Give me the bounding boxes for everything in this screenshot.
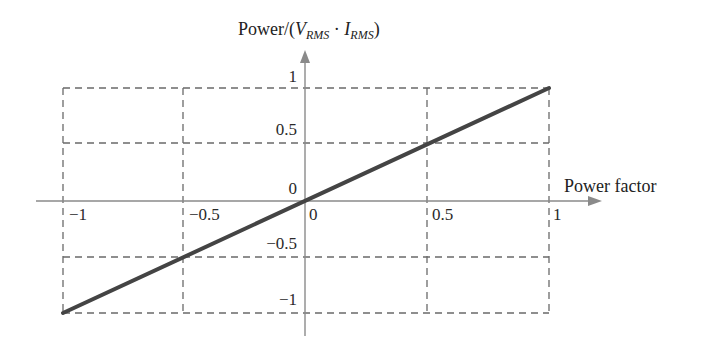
x-tick-label: −1	[69, 206, 87, 223]
x-tick-label: 1	[553, 206, 562, 223]
x-tick-label: 0	[309, 206, 318, 223]
y-tick-label: 0	[289, 180, 298, 197]
y-axis-arrow-icon	[300, 50, 310, 63]
y-tick-label: −1	[279, 291, 297, 308]
y-axis-label: Power/(VRMS · IRMS)	[238, 20, 380, 41]
x-axis-arrow-icon	[588, 196, 602, 206]
y-tick-label: −0.5	[266, 235, 297, 252]
y-tick-label: 1	[289, 68, 298, 85]
x-tick-label: −0.5	[189, 206, 220, 223]
y-tick-label: 0.5	[276, 121, 297, 138]
x-axis-label: Power factor	[564, 177, 656, 195]
x-tick-label: 0.5	[432, 206, 453, 223]
